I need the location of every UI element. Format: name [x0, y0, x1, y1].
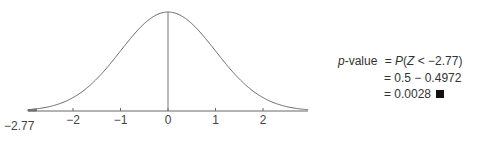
x-tick-label: −1: [114, 113, 128, 127]
x-tick-label: 2: [260, 113, 267, 127]
equation-line-3: = 0.0028: [384, 87, 444, 101]
p-symbol: p: [338, 54, 345, 68]
value-word: -value: [345, 54, 378, 68]
x-tick-label: 1: [212, 113, 219, 127]
x-tick-label: −2: [66, 113, 80, 127]
qed-square-icon: [436, 90, 444, 98]
marked-value-label: −2.77: [4, 119, 34, 133]
p-value-result: = 0.0028: [384, 87, 431, 101]
inequality: < −2.77): [414, 54, 462, 68]
equation-line-1: p-value = P(Z < −2.77): [338, 54, 462, 68]
x-tick-label: 0: [165, 113, 172, 127]
equals-sign: =: [385, 54, 395, 68]
prob-P: P: [395, 54, 403, 68]
equation-line-2: = 0.5 − 0.4972: [384, 71, 461, 85]
